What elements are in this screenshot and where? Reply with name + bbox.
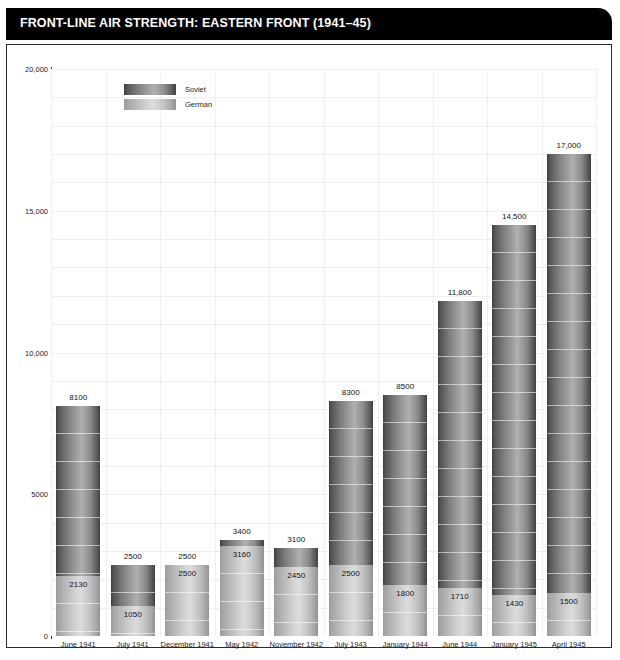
legend-label-german: German (185, 100, 212, 109)
y-axis-tick-label: 0 (44, 632, 48, 641)
x-axis-tick-label: June 1944 (433, 640, 488, 649)
gridline-vertical (269, 69, 270, 636)
bar-value-label-soviet: 8100 (44, 393, 112, 402)
bar-value-label-soviet: 14,500 (480, 212, 548, 221)
gridline-vertical (487, 69, 488, 636)
bar-group: 31002450 (274, 69, 318, 636)
bar-group: 83002500 (329, 69, 373, 636)
x-axis-tick-labels: June 1941July 1941December 1941May 1942N… (51, 640, 596, 656)
x-axis-tick-label: July 1941 (106, 640, 161, 649)
x-axis-tick-label: January 1945 (487, 640, 542, 649)
gridline-vertical (51, 69, 52, 636)
bar-value-label-soviet: 8500 (371, 382, 439, 391)
bar-value-label-german: 2500 (329, 569, 373, 578)
x-axis-tick-label: November 1942 (269, 640, 324, 649)
bar-group: 34003160 (220, 69, 264, 636)
legend-label-soviet: Soviet (185, 85, 206, 94)
x-axis-tick-label: December 1941 (160, 640, 215, 649)
bar-value-label-german: 2500 (165, 569, 209, 578)
bar-group: 11,8001710 (438, 69, 482, 636)
german-gradient-swatch (124, 99, 176, 110)
bar-value-label-soviet: 11,800 (426, 288, 494, 297)
bar-group: 25002500 (165, 69, 209, 636)
x-axis-tick-label: May 1942 (215, 640, 270, 649)
bar-group: 25001050 (111, 69, 155, 636)
bar-group: 14,5001430 (492, 69, 536, 636)
y-axis-tick-label: 15,000 (25, 206, 48, 215)
bar-value-label-german: 2130 (56, 580, 100, 589)
bar-group: 85001800 (383, 69, 427, 636)
chart-legend: Soviet German (124, 83, 212, 113)
chart-figure: FRONT-LINE AIR STRENGTH: EASTERN FRONT (… (6, 8, 612, 648)
x-axis-tick-label: January 1944 (378, 640, 433, 649)
legend-item-german: German (124, 98, 212, 110)
bar-value-label-soviet: 3100 (262, 535, 330, 544)
title-banner: FRONT-LINE AIR STRENGTH: EASTERN FRONT (… (6, 8, 612, 40)
legend-item-soviet: Soviet (124, 83, 212, 95)
bar-value-label-german: 1800 (383, 589, 427, 598)
x-axis-tick-label: April 1945 (542, 640, 597, 649)
bar-value-label-german: 3160 (220, 550, 264, 559)
chart-panel: 0500010,00015,00020,000 8100213025001050… (6, 44, 612, 648)
y-axis-tick-label: 20,000 (25, 65, 48, 74)
bar-soviet (492, 225, 536, 636)
bar-value-label-german: 1050 (111, 610, 155, 619)
gridline-vertical (215, 69, 216, 636)
y-axis-tick-label: 5000 (31, 490, 48, 499)
gridline-vertical (378, 69, 379, 636)
bar-german (220, 546, 264, 636)
y-axis-tick-labels: 0500010,00015,00020,000 (7, 45, 48, 647)
y-axis-tick-label: 10,000 (25, 348, 48, 357)
gridline-vertical (160, 69, 161, 636)
bar-banding (438, 301, 482, 636)
bar-value-label-soviet: 17,000 (535, 141, 603, 150)
bar-value-label-german: 1430 (492, 599, 536, 608)
bar-soviet (547, 154, 591, 636)
bar-banding (492, 225, 536, 636)
bar-value-label-german: 2450 (274, 571, 318, 580)
soviet-gradient-swatch (124, 84, 176, 95)
bar-banding (547, 154, 591, 636)
bar-value-label-german: 1500 (547, 597, 591, 606)
bar-group: 81002130 (56, 69, 100, 636)
bar-group: 17,0001500 (547, 69, 591, 636)
gridline-vertical (542, 69, 543, 636)
gridline-vertical (324, 69, 325, 636)
gridline-vertical (106, 69, 107, 636)
bar-value-label-soviet: 2500 (153, 552, 221, 561)
bar-banding (220, 546, 264, 636)
bar-value-label-german: 1710 (438, 592, 482, 601)
plot-area: 8100213025001050250025003400316031002450… (51, 69, 596, 636)
page-title: FRONT-LINE AIR STRENGTH: EASTERN FRONT (… (20, 16, 371, 30)
gridline-vertical (596, 69, 597, 636)
x-axis-tick-label: June 1941 (51, 640, 106, 649)
x-axis-tick-label: July 1943 (324, 640, 379, 649)
gridline-vertical (433, 69, 434, 636)
bar-soviet (438, 301, 482, 636)
